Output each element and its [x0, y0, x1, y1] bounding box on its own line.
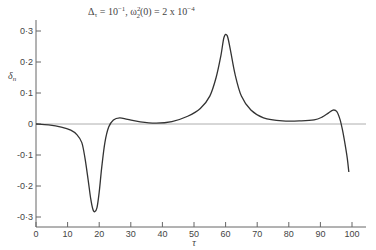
x-tick-label: 50: [189, 229, 199, 239]
y-tick-label: 0·3: [20, 26, 33, 36]
y-tick-label: -0·3: [17, 212, 33, 222]
x-axis-ticks: 0102030405060708090100: [33, 222, 359, 239]
x-tick-label: 80: [284, 229, 294, 239]
x-tick-label: 20: [94, 229, 104, 239]
y-tick-label: -0·2: [17, 181, 33, 191]
x-tick-label: 30: [126, 229, 136, 239]
chart: Δτ = 10−1, ω22(0) = 2 x 10−4 δn τ 0·30·2…: [0, 0, 376, 250]
x-tick-label: 60: [221, 229, 231, 239]
chart-title: Δτ = 10−1, ω22(0) = 2 x 10−4: [88, 5, 195, 20]
y-tick-label: -0·1: [17, 150, 33, 160]
x-tick-label: 10: [63, 229, 73, 239]
y-tick-label: 0·2: [20, 57, 33, 67]
axes: [36, 20, 366, 227]
data-series-line: [36, 34, 349, 211]
x-tick-label: 70: [252, 229, 262, 239]
x-tick-label: 90: [315, 229, 325, 239]
x-tick-label: 100: [344, 229, 359, 239]
x-tick-label: 40: [157, 229, 167, 239]
x-tick-label: 0: [33, 229, 38, 239]
y-axis-label: δn: [8, 70, 17, 83]
y-tick-label: 0: [28, 119, 33, 129]
y-tick-label: 0·1: [20, 88, 33, 98]
